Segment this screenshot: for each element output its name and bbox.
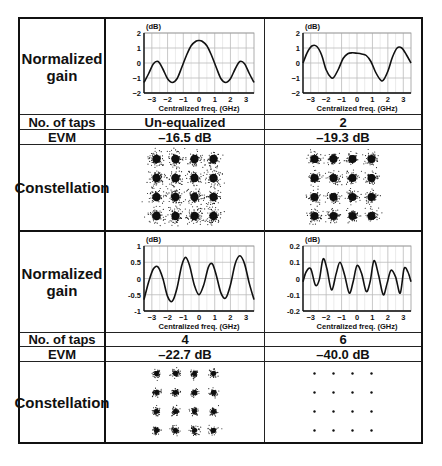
y-tick-label: 1	[137, 242, 141, 251]
taps-value: Un-equalized	[106, 115, 264, 129]
x-tick-label: 0	[355, 95, 359, 104]
label-line: Normalized	[22, 265, 103, 282]
constellation-point-cluster	[185, 206, 204, 225]
constellation-point-cluster	[344, 151, 359, 165]
constellation-point-cluster	[182, 166, 204, 187]
x-tick-label: −2	[163, 95, 172, 104]
constellation-point-cluster	[363, 170, 380, 185]
constellation-point-cluster	[332, 372, 334, 374]
constellation-point-cluster	[146, 170, 165, 188]
row-label-constellation: Constellation	[20, 145, 104, 230]
constellation-point-cluster	[190, 369, 198, 380]
x-tick-label: 3	[244, 95, 248, 104]
constellation-point-cluster	[164, 171, 183, 192]
label-line: gain	[47, 67, 78, 84]
x-tick-label: 2	[386, 313, 390, 322]
y-tick-label: 1	[296, 44, 300, 53]
x-tick-label: 3	[401, 95, 405, 104]
y-tick-label: −2	[291, 89, 300, 98]
gain-chart-6-taps: 0.20.10-0.1-0.2−3−2−10123(dB)Centralized…	[265, 232, 421, 332]
constellation-point-cluster	[189, 425, 202, 436]
gain-chart-2-taps: 210−1−2−3−2−10123(dB)Centralized freq. (…	[265, 19, 421, 114]
constellation-point-cluster	[313, 410, 315, 412]
x-tick-label: 0	[355, 313, 359, 322]
constellation-point-cluster	[365, 206, 383, 221]
constellation-point-cluster	[306, 189, 325, 207]
constellation-point-cluster	[152, 388, 162, 398]
taps-value: 4	[106, 333, 264, 346]
y-tick-label: −1	[291, 74, 300, 83]
constellation-point-cluster	[170, 388, 181, 397]
x-tick-label: 1	[213, 313, 217, 322]
y-tick-label: −2	[132, 89, 141, 98]
y-tick-label: -0.2	[287, 307, 300, 316]
constellation-point-cluster	[152, 405, 161, 416]
constellation-point-cluster	[322, 208, 341, 223]
taps-value: 6	[265, 333, 421, 346]
x-tick-label: 2	[386, 95, 390, 104]
constellation-point-cluster	[351, 372, 353, 374]
constellation-point-cluster	[204, 152, 224, 169]
y-tick-label: -0.5	[128, 291, 141, 300]
constellation-point-cluster	[325, 192, 343, 204]
y-tick-label: 0	[137, 275, 141, 284]
x-tick-label: −2	[322, 95, 331, 104]
constellation-point-cluster	[208, 425, 223, 436]
x-tick-label: 1	[213, 95, 217, 104]
x-tick-label: 2	[228, 313, 232, 322]
comparison-table: Normalized gain 210−1−2−3−2−10123(dB)Cen…	[18, 17, 423, 444]
row-label-constellation: Constellation	[20, 362, 104, 442]
constellation-point-cluster	[351, 429, 353, 431]
gain-chart-unequalized: 210−1−2−3−2−10123(dB)Centralized freq. (…	[106, 19, 264, 114]
constellation-cell	[106, 362, 264, 442]
x-tick-label: −1	[179, 313, 188, 322]
row-label-evm: EVM	[20, 130, 104, 144]
y-tick-label: 1	[137, 44, 141, 53]
constellation-point-cluster	[209, 405, 219, 417]
x-tick-label: −1	[179, 95, 188, 104]
constellation-point-cluster	[325, 170, 343, 185]
taps-value: 2	[265, 115, 421, 129]
x-tick-label: −2	[322, 313, 331, 322]
constellation-point-cluster	[167, 148, 186, 170]
constellation-cell	[265, 362, 421, 442]
y-tick-label: 0	[137, 59, 141, 68]
y-tick-label: 0	[296, 59, 300, 68]
constellation-point-cluster	[370, 391, 372, 393]
constellation-point-cluster	[370, 410, 372, 412]
constellation-cell	[265, 145, 421, 230]
constellation-diagram-6-taps	[265, 362, 421, 442]
constellation-point-cluster	[332, 391, 334, 393]
constellation-point-cluster	[197, 204, 224, 226]
constellation-cell	[106, 145, 264, 230]
gain-chart-cell: 0.20.10-0.1-0.2−3−2−10123(dB)Centralized…	[265, 232, 421, 332]
x-tick-label: 3	[244, 313, 248, 322]
x-tick-label: −1	[337, 95, 346, 104]
y-axis-unit-label: (dB)	[146, 235, 161, 244]
constellation-point-cluster	[144, 201, 168, 226]
constellation-point-cluster	[332, 429, 334, 431]
x-tick-label: −3	[148, 95, 157, 104]
constellation-point-cluster	[346, 208, 361, 223]
x-axis-label: Centralized freq. (GHz)	[317, 322, 398, 331]
x-tick-label: 2	[228, 95, 232, 104]
constellation-point-cluster	[308, 170, 323, 187]
x-tick-label: −1	[337, 313, 346, 322]
y-tick-label: 0.1	[290, 258, 300, 267]
x-tick-label: −2	[163, 313, 172, 322]
constellation-diagram-2-taps	[265, 145, 421, 230]
constellation-point-cluster	[323, 153, 340, 165]
x-axis-label: Centralized freq. (GHz)	[317, 104, 398, 113]
y-axis-unit-label: (dB)	[305, 22, 320, 31]
evm-value: –22.7 dB	[106, 347, 264, 361]
evm-value: –19.3 dB	[265, 130, 421, 144]
constellation-point-cluster	[204, 167, 225, 188]
constellation-point-cluster	[313, 372, 315, 374]
x-tick-label: 1	[370, 313, 374, 322]
constellation-point-cluster	[171, 405, 181, 417]
constellation-point-cluster	[341, 169, 362, 185]
row-label-evm: EVM	[20, 347, 104, 361]
row-label-taps: No. of taps	[20, 115, 104, 129]
constellation-point-cluster	[189, 407, 199, 416]
constellation-point-cluster	[345, 188, 362, 205]
